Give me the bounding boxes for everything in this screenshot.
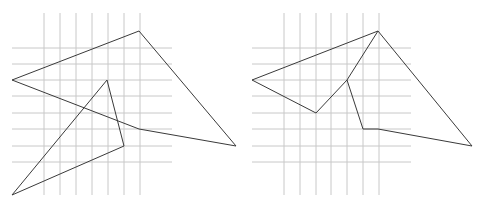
right-panel bbox=[252, 13, 472, 195]
right-grid bbox=[252, 13, 411, 195]
left-panel bbox=[12, 13, 236, 195]
triangle-shape bbox=[12, 80, 124, 195]
geometry-figure bbox=[0, 0, 485, 206]
left-grid bbox=[12, 13, 172, 195]
